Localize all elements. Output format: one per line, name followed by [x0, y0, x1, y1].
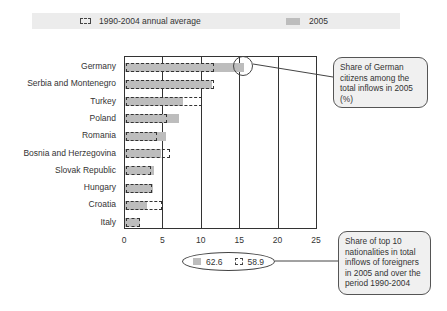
- note-german-share-text: Share of German citizens among the total…: [340, 62, 413, 104]
- note-german-share: Share of German citizens among the total…: [333, 57, 428, 108]
- top10-totals-ellipse: 62.6 58.9: [182, 252, 275, 271]
- germany-highlight-circle: [233, 56, 253, 76]
- top10-2005-value: 62.6: [206, 257, 223, 267]
- note-top10-share: Share of top 10 nationalities in total i…: [338, 231, 431, 295]
- top10-average-value: 58.9: [248, 257, 265, 267]
- solid-swatch-icon: [193, 258, 201, 265]
- note-top10-share-text: Share of top 10 nationalities in total i…: [345, 236, 421, 288]
- dashed-swatch-icon: [235, 258, 243, 265]
